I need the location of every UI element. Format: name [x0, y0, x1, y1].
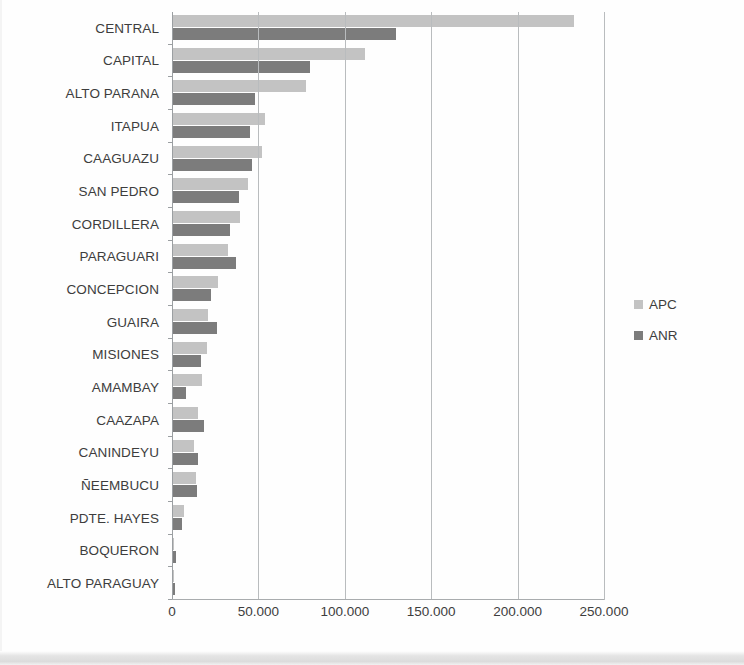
category-label: ÑEEMBUCU — [0, 469, 166, 502]
category-label: ALTO PARANA — [0, 77, 166, 110]
bar-apc — [172, 505, 184, 517]
bar-apc — [172, 309, 208, 321]
bar-apc — [172, 15, 574, 27]
bar-anr — [172, 224, 230, 236]
bar-apc — [172, 472, 196, 484]
bar-group — [172, 535, 604, 568]
bar-anr — [172, 453, 198, 465]
bar-anr — [172, 93, 255, 105]
bar-group — [172, 567, 604, 600]
category-label: CAAZAPA — [0, 404, 166, 437]
bar-group — [172, 469, 604, 502]
bar-apc — [172, 374, 202, 386]
chart-legend: APCANR — [634, 289, 734, 351]
bar-anr — [172, 257, 236, 269]
bar-group — [172, 404, 604, 437]
bar-apc — [172, 440, 194, 452]
bar-apc — [172, 48, 365, 60]
category-label: CAPITAL — [0, 45, 166, 78]
bar-apc — [172, 211, 240, 223]
bar-anr — [172, 191, 239, 203]
legend-label: APC — [649, 297, 677, 312]
category-label: CORDILLERA — [0, 208, 166, 241]
bar-chart: CENTRALCAPITALALTO PARANAITAPUACAAGUAZUS… — [0, 0, 744, 665]
bar-group — [172, 437, 604, 470]
bar-apc — [172, 178, 248, 190]
gridline-50000 — [258, 12, 259, 600]
x-axis-tick-labels: 050.000100.000150.000200.000250.000 — [172, 604, 604, 628]
category-label: CAAGUAZU — [0, 143, 166, 176]
bar-group — [172, 208, 604, 241]
bar-group — [172, 273, 604, 306]
category-label: CONCEPCION — [0, 273, 166, 306]
category-label: GUAIRA — [0, 306, 166, 339]
category-label: PDTE. HAYES — [0, 502, 166, 535]
bar-group — [172, 241, 604, 274]
category-label: PARAGUARI — [0, 241, 166, 274]
bar-anr — [172, 420, 204, 432]
gridline-150000 — [431, 12, 432, 600]
category-label: CENTRAL — [0, 12, 166, 45]
bar-anr — [172, 61, 310, 73]
gridline-0 — [172, 12, 173, 600]
gridline-100000 — [345, 12, 346, 600]
bar-anr — [172, 159, 252, 171]
bar-anr — [172, 289, 211, 301]
bar-group — [172, 306, 604, 339]
x-tick-label: 50.000 — [238, 604, 279, 619]
bar-group — [172, 339, 604, 372]
gridline-250000 — [604, 12, 605, 600]
bar-apc — [172, 407, 198, 419]
bar-anr — [172, 518, 182, 530]
bar-apc — [172, 244, 228, 256]
legend-item-apc[interactable]: APC — [634, 289, 734, 320]
bar-anr — [172, 387, 186, 399]
category-label: MISIONES — [0, 339, 166, 372]
category-label: ALTO PARAGUAY — [0, 567, 166, 600]
gridline-200000 — [518, 12, 519, 600]
category-label: BOQUERON — [0, 535, 166, 568]
x-tick-label: 100.000 — [320, 604, 369, 619]
category-label: CANINDEYU — [0, 437, 166, 470]
legend-swatch-icon — [634, 300, 643, 309]
bar-group — [172, 77, 604, 110]
bar-rows — [172, 12, 604, 600]
bar-apc — [172, 146, 262, 158]
bar-anr — [172, 322, 217, 334]
bar-group — [172, 502, 604, 535]
legend-label: ANR — [649, 328, 678, 343]
bar-group — [172, 45, 604, 78]
bar-apc — [172, 80, 306, 92]
bar-anr — [172, 126, 250, 138]
x-tick-label: 0 — [168, 604, 176, 619]
category-label: AMAMBAY — [0, 371, 166, 404]
bar-anr — [172, 355, 201, 367]
bar-group — [172, 175, 604, 208]
bar-group — [172, 110, 604, 143]
x-tick-label: 150.000 — [407, 604, 456, 619]
category-label: SAN PEDRO — [0, 175, 166, 208]
category-label: ITAPUA — [0, 110, 166, 143]
x-tick-label: 250.000 — [580, 604, 629, 619]
x-tick-label: 200.000 — [493, 604, 542, 619]
scan-page-band — [0, 651, 744, 665]
x-axis-line — [172, 599, 604, 600]
y-axis-category-labels: CENTRALCAPITALALTO PARANAITAPUACAAGUAZUS… — [0, 12, 166, 600]
bar-anr — [172, 485, 197, 497]
bar-group — [172, 371, 604, 404]
bar-apc — [172, 113, 265, 125]
plot-area — [172, 12, 604, 600]
legend-swatch-icon — [634, 331, 643, 340]
legend-item-anr[interactable]: ANR — [634, 320, 734, 351]
bar-group — [172, 143, 604, 176]
bar-apc — [172, 342, 207, 354]
bar-anr — [172, 28, 396, 40]
bar-apc — [172, 276, 218, 288]
bar-group — [172, 12, 604, 45]
